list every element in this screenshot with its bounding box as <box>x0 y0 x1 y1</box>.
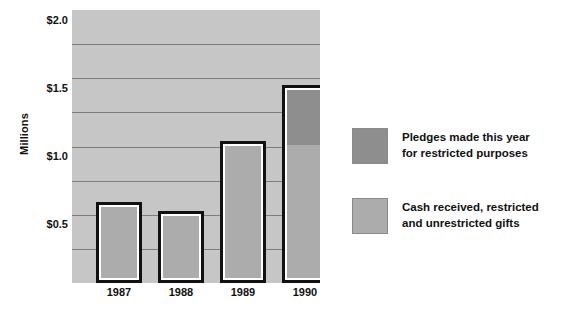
plot-area <box>72 10 320 283</box>
y-tick-label-0-5: $0.5 <box>24 218 68 230</box>
y-tick-label-2-0: $2.0 <box>24 14 68 26</box>
legend-label-cash: Cash received, restricted and unrestrict… <box>402 198 539 231</box>
x-axis-tick-labels: 1987 1988 1989 1990 <box>72 286 320 310</box>
y-axis-tick-labels: $2.0 $1.5 $1.0 $0.5 <box>20 0 68 320</box>
bar-segment-cash-1990 <box>287 145 320 278</box>
gridline-1-50 <box>72 78 320 79</box>
y-tick-label-1-5: $1.5 <box>24 82 68 94</box>
bar-1989[interactable] <box>220 141 266 283</box>
bar-1990[interactable] <box>282 85 320 283</box>
bar-segment-cash-1987 <box>101 207 137 278</box>
y-tick-label-1-0: $1.0 <box>24 150 68 162</box>
legend-swatch-cash-icon <box>352 198 388 234</box>
legend-label-pledges-line2: for restricted purposes <box>402 145 530 161</box>
bar-segment-pledges-1990 <box>287 90 320 145</box>
bar-1987[interactable] <box>96 202 142 283</box>
bar-segment-cash-1989 <box>225 146 261 278</box>
bar-chart: Millions $2.0 $1.5 $1.0 $0.5 <box>0 0 567 320</box>
x-tick-label-1990: 1990 <box>268 286 342 298</box>
gridline-1-75 <box>72 44 320 45</box>
chart-legend: Pledges made this year for restricted pu… <box>352 128 562 268</box>
bar-segment-cash-1988 <box>163 216 199 278</box>
legend-swatch-pledges-icon <box>352 128 388 164</box>
legend-label-pledges-line1: Pledges made this year <box>402 131 530 143</box>
legend-item-pledges[interactable]: Pledges made this year for restricted pu… <box>352 128 562 164</box>
legend-label-cash-line2: and unrestricted gifts <box>402 215 539 231</box>
legend-label-cash-line1: Cash received, restricted <box>402 201 539 213</box>
legend-label-pledges: Pledges made this year for restricted pu… <box>402 128 530 161</box>
legend-item-cash[interactable]: Cash received, restricted and unrestrict… <box>352 198 562 234</box>
bar-1988[interactable] <box>158 211 204 283</box>
